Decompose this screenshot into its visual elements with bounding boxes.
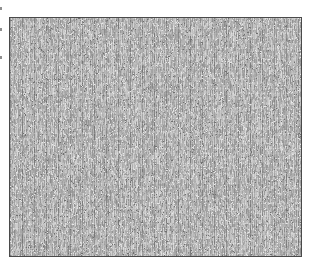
texture-figure bbox=[9, 17, 302, 257]
texture-image bbox=[10, 18, 301, 256]
cropped-text-fragment bbox=[0, 7, 2, 10]
cropped-text-fragment bbox=[0, 56, 2, 59]
cropped-text-fragment bbox=[0, 28, 2, 31]
